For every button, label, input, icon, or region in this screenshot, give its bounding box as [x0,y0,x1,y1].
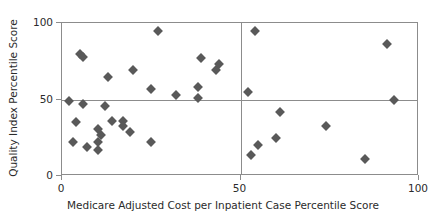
data-point [107,116,117,126]
data-point [250,26,260,36]
data-point [93,145,103,155]
data-point [68,137,78,147]
data-point [321,121,331,131]
y-tick-label-50: 50 [23,93,53,105]
data-point [382,39,392,49]
data-point [103,72,113,82]
data-point [243,87,253,97]
x-tick-label-50: 50 [233,182,246,194]
scatter-plot-figure: Quality Index Percentile Score 100 50 0 … [0,0,446,220]
data-point [146,137,156,147]
y-tick-label-0: 0 [23,169,53,181]
data-point [196,53,206,63]
data-point [153,26,163,36]
x-axis-title: Medicare Adjusted Cost per Inpatient Cas… [0,199,446,211]
data-point [64,96,74,106]
x-tick-label-0: 0 [58,182,65,194]
data-point [82,142,92,152]
y-tick-label-100: 100 [23,16,53,28]
data-point [275,107,285,117]
data-point [100,101,110,111]
plot-area [62,23,417,174]
y-axis-title: Quality Index Percentile Score [7,18,19,178]
data-point [125,127,135,137]
x-tick-mark-50 [240,175,241,180]
x-tick-mark-100 [418,175,419,180]
data-point [193,93,203,103]
data-point [389,95,399,105]
data-point [78,52,88,62]
data-point [146,84,156,94]
data-point [171,90,181,100]
plot-frame [61,22,418,175]
x-tick-mark-0 [61,175,62,180]
data-point [78,99,88,109]
reference-line-x-50 [241,23,242,174]
data-point [71,117,81,127]
reference-line-y-50 [62,100,417,101]
data-point [271,133,281,143]
x-tick-label-100: 100 [408,182,428,194]
data-point [246,150,256,160]
data-point [128,65,138,75]
data-point [360,154,370,164]
data-point [253,140,263,150]
data-point [193,82,203,92]
